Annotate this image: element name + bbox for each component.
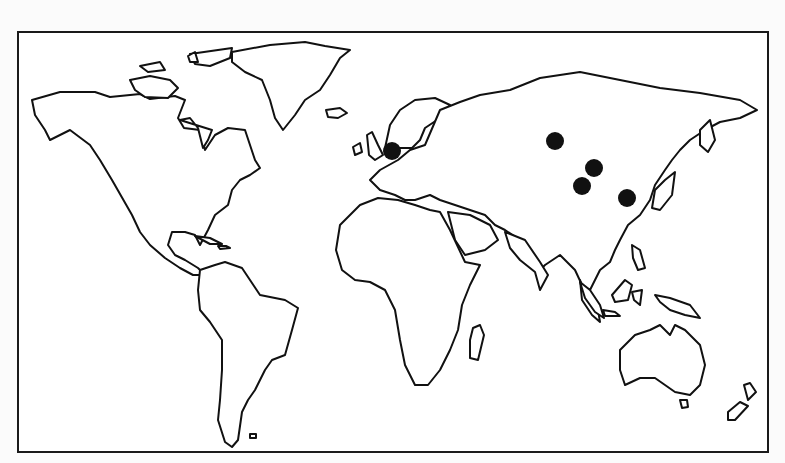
hispaniola [218, 246, 230, 249]
ireland [353, 143, 362, 155]
britain [367, 132, 383, 160]
java [603, 310, 620, 316]
new-zealand-south [728, 402, 748, 420]
philippines [632, 245, 645, 270]
marker-central-asia-north-dot [546, 132, 564, 150]
marker-east-china-dot [618, 189, 636, 207]
south-america [198, 262, 298, 447]
borneo [612, 280, 632, 302]
sulawesi [632, 290, 642, 305]
new-guinea [655, 295, 700, 318]
iceland [326, 108, 347, 118]
new-zealand-north [744, 383, 756, 400]
world-map [0, 0, 785, 463]
australia [620, 325, 705, 395]
madagascar [470, 325, 484, 360]
marker-north-china-dot [573, 177, 591, 195]
marker-europe-dot [383, 142, 401, 160]
falklands [250, 434, 256, 438]
tasmania [680, 400, 688, 408]
marker-mongolia-dot [585, 159, 603, 177]
arctic-islands-3 [140, 62, 165, 72]
